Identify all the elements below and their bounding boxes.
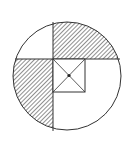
circle-diagram xyxy=(0,0,132,143)
hatched-region-top-right xyxy=(53,0,132,59)
center-dot xyxy=(67,74,70,77)
hatched-region-bottom-left xyxy=(0,59,53,143)
